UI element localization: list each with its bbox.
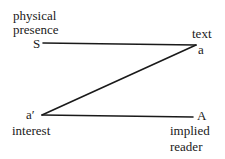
edge-a-to-a-prime xyxy=(42,45,196,115)
caption-physical: physical xyxy=(13,8,57,23)
node-a-symbol: a xyxy=(198,42,204,57)
caption-implied: implied xyxy=(170,123,210,138)
node-a-prime-symbol: a′ xyxy=(26,107,35,122)
caption-reader: reader xyxy=(170,139,203,154)
edge-a-prime-to-A xyxy=(42,115,193,117)
edge-S-to-a xyxy=(43,43,196,45)
node-S-symbol: S xyxy=(33,36,40,51)
node-A-symbol: A xyxy=(197,108,207,123)
caption-presence: presence xyxy=(13,22,59,37)
caption-interest: interest xyxy=(12,123,51,138)
caption-text: text xyxy=(192,26,212,41)
z-diagram: physical presence S text a a′ interest A… xyxy=(0,0,225,159)
